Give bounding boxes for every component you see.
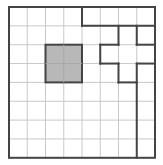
- grid-puzzle-diagram: [0, 0, 163, 165]
